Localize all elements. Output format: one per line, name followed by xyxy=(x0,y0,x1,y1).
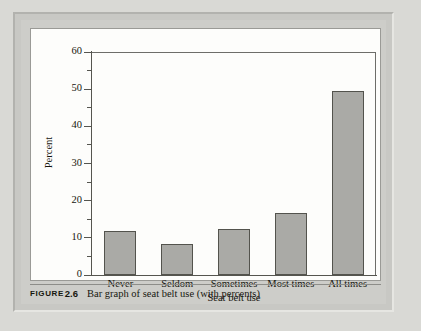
y-axis-tick-major xyxy=(84,200,92,201)
figure-inner-frame: 0102030405060 Percent NeverSeldomSometim… xyxy=(21,20,386,304)
y-axis-title: Percent xyxy=(43,123,54,183)
y-axis-tick-labels: 0102030405060 xyxy=(31,29,82,282)
figure-page: 0102030405060 Percent NeverSeldomSometim… xyxy=(0,0,421,331)
y-axis-tick-label: 20 xyxy=(34,195,82,206)
caption-number: 2.6 xyxy=(65,288,78,299)
chart-panel: 0102030405060 Percent NeverSeldomSometim… xyxy=(30,28,381,281)
bar-series xyxy=(92,52,376,275)
figure-outer-frame: 0102030405060 Percent NeverSeldomSometim… xyxy=(13,12,394,312)
y-axis-tick-major xyxy=(84,275,92,276)
bar-most-times xyxy=(275,213,307,275)
y-axis-tick-label: 50 xyxy=(34,83,82,94)
caption-text: Bar graph of seat belt use (with percent… xyxy=(87,288,260,299)
bar-seldom xyxy=(161,244,193,275)
y-axis-tick-major xyxy=(84,52,92,53)
caption-divider xyxy=(30,284,381,285)
y-axis-tick-major xyxy=(84,237,92,238)
y-axis-tick-major xyxy=(84,163,92,164)
x-axis-line xyxy=(90,275,377,276)
bar-chart: 0102030405060 Percent NeverSeldomSometim… xyxy=(31,29,382,282)
bar-all-times xyxy=(332,91,364,275)
y-axis-tick-label: 10 xyxy=(34,232,82,243)
bar-sometimes xyxy=(218,229,250,275)
y-axis-tick-label: 40 xyxy=(34,120,82,131)
figure-caption: FIGURE 2.6 Bar graph of seat belt use (w… xyxy=(30,286,381,300)
y-axis-tick-label: 0 xyxy=(34,269,82,280)
bar-never xyxy=(104,231,136,275)
y-axis-tick-label: 60 xyxy=(34,46,82,57)
caption-label: FIGURE xyxy=(30,289,64,298)
y-axis-tick-major xyxy=(84,126,92,127)
y-axis-tick-major xyxy=(84,89,92,90)
y-axis-tick-label: 30 xyxy=(34,158,82,169)
